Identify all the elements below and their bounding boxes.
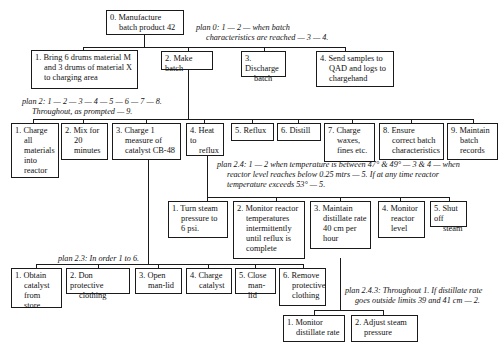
task-2-9-maintain-records: 9. Maintain batch records bbox=[447, 123, 498, 160]
task-2-4-2-monitor-temperatures: 2. Monitor reactor temperatures intermit… bbox=[233, 201, 305, 259]
connector bbox=[148, 160, 149, 264]
task-2-3-6-remove-clothing: 6. Remove protective clothing bbox=[279, 268, 326, 306]
task-2-3-1-obtain-catalyst: 1. Obtain catalyst from store bbox=[11, 268, 62, 308]
task-2-2-mix: 2. Mix for 20 minutes bbox=[61, 123, 108, 160]
task-2-3-5-close-man-lid: 5. Close man-lid bbox=[235, 268, 276, 294]
task-2-3-2-don-clothing: 2. Don protective clothing bbox=[66, 268, 130, 294]
connector bbox=[188, 69, 189, 119]
connector bbox=[340, 258, 341, 311]
plan-2: plan 2: 1 — 2 — 3 — 4 — 5 — 6 — 7 — 8. T… bbox=[22, 97, 162, 117]
task-2-4-3-1-monitor-distillate: 1. Monitor distillate rate bbox=[283, 315, 345, 342]
task-2-4-3-maintain-distillate: 3. Maintain distillate rate 40 cm per ho… bbox=[310, 201, 371, 249]
plan-2-4: plan 2.4: 1 — 2 when temperature is betw… bbox=[217, 160, 460, 190]
connector bbox=[33, 119, 474, 120]
task-2-4-1-turn-steam: 1. Turn steam pressure to 6 psi. bbox=[168, 201, 228, 238]
task-2-8-ensure-characteristics: 8. Ensure correct batch characteristics bbox=[379, 123, 444, 160]
connector bbox=[144, 34, 145, 47]
task-2-1-charge-materials: 1. Charge all materials into reactor bbox=[11, 123, 59, 178]
task-2-6-distill: 6. Distill bbox=[277, 123, 321, 141]
task-2-4-5-shut-off-steam: 5. Shut off steam bbox=[430, 201, 467, 227]
connector bbox=[207, 197, 450, 198]
task-0-manufacture-batch: 0. Manufacture batch product 42 bbox=[106, 10, 184, 35]
task-2-3-charge-catalyst: 3. Charge 1 measure of catalyst CB-48 bbox=[112, 123, 181, 160]
connector bbox=[36, 264, 304, 265]
task-2-4-3-2-adjust-steam: 2. Adjust steam pressure bbox=[351, 315, 418, 342]
task-2-7-charge-waxes: 7. Charge waxes, fines etc. bbox=[324, 123, 375, 162]
task-2-4-4-monitor-level: 4. Monitor reactor level bbox=[378, 201, 425, 238]
task-4-send-samples: 4. Send samples to QAD and logs to charg… bbox=[316, 51, 394, 87]
task-2-make-batch: 2. Make batch bbox=[161, 51, 213, 70]
plan-0: plan 0: 1 — 2 — when batch characteristi… bbox=[196, 23, 328, 43]
hta-diagram: plan 0: 1 — 2 — when batch characteristi… bbox=[0, 0, 504, 348]
task-2-3-3-open-man-lid: 3. Open man-lid bbox=[135, 268, 182, 294]
task-3-discharge-batch: 3. Discharge batch bbox=[241, 51, 286, 77]
connector bbox=[207, 156, 208, 198]
task-2-3-4-charge-catalyst: 4. Charge catalyst bbox=[186, 268, 232, 294]
connector bbox=[314, 310, 384, 311]
task-2-5-reflux: 5. Reflux bbox=[231, 123, 274, 141]
task-1-bring-drums: 1. Bring 6 drums material M and 3 drums … bbox=[31, 50, 138, 89]
plan-2-4-3: plan 2.4.3: Throughout 1. If distillate … bbox=[345, 286, 482, 306]
plan-2-3: plan 2.3: In order 1 to 6. bbox=[58, 254, 139, 264]
connector bbox=[83, 47, 346, 48]
task-2-4-heat-to-reflux: 4. Heat to reflux bbox=[186, 123, 224, 156]
